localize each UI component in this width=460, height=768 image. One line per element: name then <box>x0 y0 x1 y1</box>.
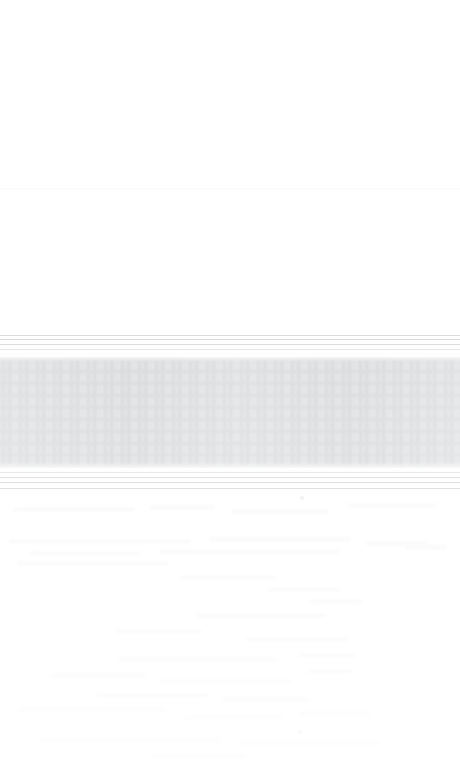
ghost-dot-mark <box>298 730 302 734</box>
ghost-text-trace <box>232 510 328 513</box>
upper-rule-band <box>0 334 460 354</box>
gray-band-sheen <box>0 357 460 468</box>
ghost-text-trace <box>150 754 246 757</box>
ghost-text-trace <box>300 712 370 715</box>
lower-rule-band <box>0 470 460 492</box>
ghost-text-trace <box>246 638 350 641</box>
rule-line <box>0 349 460 350</box>
ghost-text-trace <box>14 508 134 511</box>
rule-line <box>0 477 460 478</box>
ghost-text-trace <box>196 614 326 617</box>
ghost-text-trace <box>186 716 282 719</box>
ghost-text-trace <box>118 658 278 661</box>
rule-line <box>0 344 460 345</box>
ghost-text-trace <box>268 588 340 591</box>
gray-band-bottom-fade <box>0 462 460 468</box>
ghost-text-trace <box>160 550 340 553</box>
gray-band-top-fade <box>0 357 460 362</box>
ghost-text-trace <box>150 506 214 509</box>
ghost-text-trace <box>348 504 436 507</box>
ghost-dot-mark <box>300 496 304 500</box>
rule-line <box>0 482 460 483</box>
rule-line <box>0 339 460 340</box>
ghost-text-trace <box>366 542 428 545</box>
central-gray-band <box>0 357 460 468</box>
ghost-text-trace <box>180 576 276 579</box>
ghost-text-trace <box>310 600 362 603</box>
rule-line <box>0 472 460 473</box>
ghost-text-trace <box>40 738 220 741</box>
ghost-text-trace <box>210 538 350 541</box>
ghost-text-trace <box>406 546 446 549</box>
ghost-text-trace <box>96 694 208 697</box>
ghost-text-trace <box>10 540 190 543</box>
ghost-text-trace <box>298 654 356 657</box>
ghost-text-trace <box>222 698 308 701</box>
ghost-text-trace <box>30 552 140 555</box>
rule-line <box>0 335 460 336</box>
ghost-text-trace <box>240 742 380 745</box>
ghost-text-trace <box>308 670 352 673</box>
blank-upper-area <box>0 0 460 335</box>
ghost-text-trace <box>50 674 146 677</box>
ghost-text-trace <box>116 630 202 633</box>
faint-horizontal-seam <box>0 188 460 190</box>
ghost-text-trace <box>20 708 166 711</box>
ghost-text-trace <box>160 680 292 683</box>
screenshot-canvas <box>0 0 460 768</box>
rule-line <box>0 488 460 489</box>
ghost-text-trace <box>18 562 168 565</box>
blank-lower-area <box>0 492 460 768</box>
